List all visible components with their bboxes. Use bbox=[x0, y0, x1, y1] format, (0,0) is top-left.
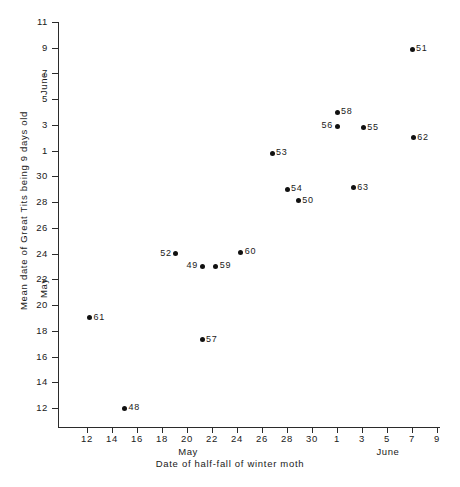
y-tick-label: 14 bbox=[26, 376, 48, 387]
data-point bbox=[361, 125, 366, 130]
y-tick-mark bbox=[52, 279, 58, 280]
x-axis-month-june: June bbox=[368, 446, 408, 457]
y-tick-label: 16 bbox=[26, 351, 48, 362]
data-point bbox=[238, 250, 243, 255]
data-point bbox=[335, 110, 340, 115]
y-tick-mark bbox=[52, 22, 58, 23]
data-point bbox=[200, 337, 205, 342]
y-tick-label: 1 bbox=[26, 145, 48, 156]
data-point bbox=[270, 151, 275, 156]
data-point-label: 58 bbox=[341, 106, 352, 116]
y-axis-month-may: May bbox=[38, 278, 49, 298]
data-point-label: 53 bbox=[276, 147, 287, 157]
data-point bbox=[411, 135, 416, 140]
y-tick-mark bbox=[52, 254, 58, 255]
data-point bbox=[410, 47, 415, 52]
x-tick-label: 3 bbox=[352, 433, 372, 444]
data-point-label: 48 bbox=[129, 402, 140, 412]
data-point bbox=[285, 187, 290, 192]
y-tick-mark bbox=[52, 408, 58, 409]
y-tick-mark bbox=[52, 125, 58, 126]
data-point bbox=[87, 315, 92, 320]
x-tick-label: 16 bbox=[127, 433, 147, 444]
data-point bbox=[351, 185, 356, 190]
x-axis-month-may: May bbox=[168, 446, 208, 457]
data-point-label: 60 bbox=[245, 246, 256, 256]
data-point bbox=[213, 264, 218, 269]
data-point bbox=[200, 264, 205, 269]
y-tick-mark bbox=[52, 228, 58, 229]
data-point bbox=[335, 124, 340, 129]
x-tick-label: 5 bbox=[377, 433, 397, 444]
y-axis-month-june: June bbox=[38, 72, 49, 95]
data-point-label: 49 bbox=[178, 260, 198, 270]
y-tick-label: 3 bbox=[26, 119, 48, 130]
y-axis-line bbox=[58, 22, 59, 428]
y-tick-label: 12 bbox=[26, 402, 48, 413]
y-tick-label: 28 bbox=[26, 196, 48, 207]
scatter-plot-figure: 121416182022242628301357911 121416182022… bbox=[0, 0, 460, 487]
x-tick-label: 30 bbox=[302, 433, 322, 444]
data-point-label: 57 bbox=[206, 334, 217, 344]
y-tick-label: 9 bbox=[26, 42, 48, 53]
y-tick-label: 20 bbox=[26, 299, 48, 310]
x-tick-label: 20 bbox=[177, 433, 197, 444]
data-point bbox=[173, 251, 178, 256]
x-axis-line bbox=[58, 427, 440, 428]
y-tick-label: 24 bbox=[26, 248, 48, 259]
data-point-label: 54 bbox=[291, 183, 302, 193]
y-tick-label: 26 bbox=[26, 222, 48, 233]
y-tick-mark bbox=[52, 176, 58, 177]
data-point-label: 55 bbox=[367, 122, 378, 132]
x-tick-label: 18 bbox=[152, 433, 172, 444]
y-tick-mark bbox=[52, 73, 58, 74]
data-point-label: 63 bbox=[357, 182, 368, 192]
x-tick-label: 22 bbox=[202, 433, 222, 444]
y-tick-mark bbox=[52, 305, 58, 306]
x-tick-label: 9 bbox=[427, 433, 447, 444]
x-axis-title: Date of half-fall of winter moth bbox=[0, 458, 460, 469]
data-point-label: 59 bbox=[220, 260, 231, 270]
data-point-label: 52 bbox=[152, 248, 172, 258]
y-tick-mark bbox=[52, 331, 58, 332]
data-point-label: 62 bbox=[417, 132, 428, 142]
data-point-label: 51 bbox=[416, 43, 427, 53]
y-tick-mark bbox=[52, 151, 58, 152]
data-point-label: 61 bbox=[94, 312, 105, 322]
data-point bbox=[296, 198, 301, 203]
x-tick-label: 12 bbox=[77, 433, 97, 444]
x-tick-label: 14 bbox=[102, 433, 122, 444]
y-tick-mark bbox=[52, 357, 58, 358]
x-tick-label: 1 bbox=[327, 433, 347, 444]
y-tick-label: 11 bbox=[26, 16, 48, 27]
x-tick-label: 28 bbox=[277, 433, 297, 444]
data-point-label: 56 bbox=[313, 120, 333, 130]
y-tick-label: 30 bbox=[26, 170, 48, 181]
y-tick-mark bbox=[52, 382, 58, 383]
y-axis-title: Mean date of Great Tits being 9 days old bbox=[18, 111, 29, 310]
x-tick-label: 26 bbox=[252, 433, 272, 444]
y-tick-label: 18 bbox=[26, 325, 48, 336]
y-tick-mark bbox=[52, 99, 58, 100]
x-tick-label: 24 bbox=[227, 433, 247, 444]
data-point bbox=[122, 406, 127, 411]
y-tick-mark bbox=[52, 48, 58, 49]
data-point-label: 50 bbox=[302, 195, 313, 205]
x-tick-label: 7 bbox=[402, 433, 422, 444]
y-tick-mark bbox=[52, 202, 58, 203]
